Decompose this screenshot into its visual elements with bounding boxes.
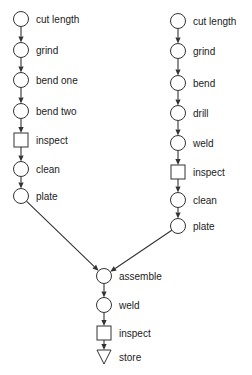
flow-process-chart: cut lengthgrindbend onebend twoinspectcl… [0,0,252,375]
operation-circle-icon [14,43,29,58]
flow-arrow [18,88,23,104]
flow-arrow [101,340,106,350]
process-step-circle: clean [14,162,60,177]
step-label: bend two [36,106,77,117]
flow-arrow [175,91,180,106]
flow-arrow [18,147,23,162]
step-label: weld [192,138,214,149]
step-label: cut length [193,16,236,27]
arrowhead-icon [175,213,180,219]
operation-circle-icon [171,193,186,208]
process-step-square: inspect [97,326,151,340]
flow-arrow [101,313,106,327]
operation-circle-icon [14,12,29,27]
process-step-circle: assemble [97,269,163,284]
step-label: plate [193,221,215,232]
process-step-circle: cut length [14,12,80,27]
process-step-circle: weld [171,136,214,151]
step-label: assemble [119,271,162,282]
step-label: drill [193,108,209,119]
flow-arrow [18,177,23,189]
arrowhead-icon [18,37,23,43]
process-step-circle: cut length [171,14,237,29]
flow-arrow [18,58,23,73]
arrowhead-icon [175,159,180,165]
operation-circle-icon [14,104,29,119]
operation-circle-icon [171,106,186,121]
arrowhead-icon [18,156,23,162]
arrowhead-icon [101,292,106,298]
operation-circle-icon [97,298,112,313]
arrowhead-icon [18,98,23,104]
process-step-circle: clean [171,193,217,208]
operation-circle-icon [14,189,29,204]
operation-circle-icon [171,219,186,234]
process-step-circle: grind [171,44,216,59]
inspection-square-icon [171,165,185,179]
step-label: clean [36,164,60,175]
operation-circle-icon [14,73,29,88]
process-step-circle: bend two [14,104,78,119]
step-label: inspect [36,135,68,146]
arrowhead-icon [101,344,106,350]
flow-arrow [175,59,180,76]
process-step-circle: plate [14,189,59,204]
process-step-circle: weld [97,298,140,313]
storage-triangle-icon [97,350,111,364]
process-step-circle: grind [14,43,59,58]
flow-arrow [175,121,180,136]
step-label: weld [118,300,140,311]
inspection-square-icon [14,133,28,147]
operation-circle-icon [171,44,186,59]
arrowhead-icon [18,183,23,189]
arrowhead-icon [101,320,106,326]
inspection-square-icon [97,326,111,340]
process-step-circle: bend [171,76,216,91]
flow-arrow [18,119,23,134]
arrowhead-icon [18,127,23,133]
step-label: cut length [36,14,79,25]
arrowhead-icon [18,67,23,73]
step-label: bend one [36,75,78,86]
process-step-circle: plate [171,219,216,234]
process-step-circle: drill [171,106,209,121]
operation-circle-icon [97,269,112,284]
step-label: inspect [119,328,151,339]
arrowhead-icon [175,70,180,76]
flow-arrow [18,27,23,43]
flow-arrow [175,151,180,166]
operation-circle-icon [171,76,186,91]
step-label: plate [36,191,58,202]
process-step-triangle: store [97,350,142,364]
arrowhead-icon [175,38,180,44]
step-label: inspect [193,167,225,178]
step-label: bend [193,78,215,89]
process-step-square: inspect [14,133,68,147]
step-label: grind [193,46,215,57]
step-label: clean [193,195,217,206]
process-step-circle: bend one [14,73,79,88]
arrowhead-icon [175,130,180,136]
merge-arrow [26,201,98,271]
arrowhead-icon [175,100,180,106]
process-step-square: inspect [171,165,225,179]
operation-circle-icon [171,14,186,29]
flow-arrow [175,29,180,44]
flow-arrow [101,284,106,298]
step-label: store [119,352,142,363]
merge-arrow [110,230,172,272]
operation-circle-icon [14,162,29,177]
flow-arrow [175,208,180,219]
arrowhead-icon [110,266,116,272]
arrowhead-icon [175,187,180,193]
operation-circle-icon [171,136,186,151]
flow-arrow [175,179,180,193]
step-label: grind [36,45,58,56]
process-steps: cut lengthgrindbend onebend twoinspectcl… [14,12,237,365]
